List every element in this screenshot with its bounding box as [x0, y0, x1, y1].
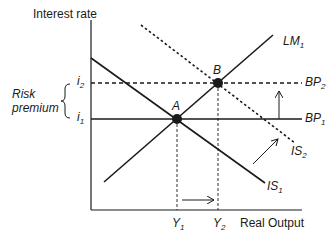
y-axis-label: Interest rate [33, 7, 97, 21]
lm1-curve [104, 35, 273, 182]
bp1-label: BP1 [305, 111, 325, 127]
is-shift-arrow [253, 139, 278, 164]
risk-premium-brace [61, 84, 70, 118]
point-b-dot [213, 78, 223, 88]
i1-label: i1 [77, 110, 84, 126]
point-a-label: A [171, 99, 180, 113]
risk-premium-label-line2: premium [11, 101, 59, 115]
risk-premium-label-line1: Risk [12, 87, 36, 101]
is2-label: IS2 [291, 144, 307, 160]
point-b-label: B [213, 63, 221, 77]
y1-label: Y1 [172, 216, 184, 232]
is1-label: IS1 [267, 179, 283, 195]
x-axis-label: Real Output [240, 216, 305, 230]
y2-label: Y2 [213, 216, 226, 232]
bp2-label: BP2 [305, 75, 326, 91]
lm1-label: LM1 [283, 34, 304, 50]
is-lm-bp-diagram: Interest rate Real Output i2 i1 Y1 Y2 LM… [0, 0, 333, 239]
i2-label: i2 [77, 74, 85, 90]
point-a-dot [172, 114, 182, 124]
